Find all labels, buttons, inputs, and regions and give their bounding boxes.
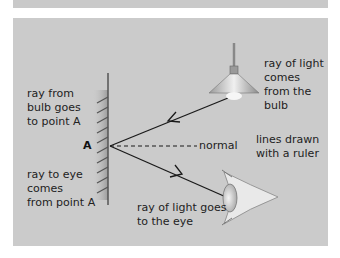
- lamp-icon: [209, 43, 259, 100]
- label-lines-drawn: lines drawn with a ruler: [256, 133, 319, 161]
- label-ray-from-bulb: ray from bulb goes to point A: [27, 87, 81, 129]
- label-ray-comes-from-bulb: ray of light comes from the bulb: [264, 57, 324, 113]
- reflected-ray: [110, 146, 226, 197]
- label-ray-goes-to-eye: ray of light goes to the eye: [137, 201, 226, 229]
- label-normal: normal: [199, 139, 238, 153]
- eye-icon: [222, 170, 278, 225]
- label-ray-to-eye: ray to eye comes from point A: [27, 168, 95, 210]
- label-point-a: A: [83, 139, 92, 152]
